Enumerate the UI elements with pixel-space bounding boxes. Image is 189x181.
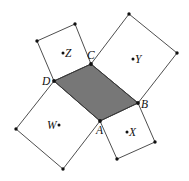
label-y: Y — [135, 53, 143, 65]
vertex-dot — [14, 127, 17, 130]
label-z: Z — [65, 47, 72, 59]
label-d: D — [41, 75, 51, 87]
label-a: A — [95, 124, 104, 136]
vertex-dot — [35, 39, 38, 42]
vertex-dot — [127, 12, 130, 15]
vertex-dot — [61, 167, 64, 170]
vertex-d — [52, 79, 56, 83]
vertex-dot — [115, 157, 118, 160]
vertex-dot — [153, 140, 156, 143]
label-x: X — [128, 126, 137, 138]
label-c: C — [87, 49, 95, 61]
vertex-c — [89, 62, 93, 66]
center-w — [58, 124, 61, 127]
label-w: W — [47, 119, 58, 131]
vertex-a — [98, 119, 102, 123]
geometry-diagram: A B C D W X Y Z — [0, 0, 189, 181]
vertex-b — [136, 101, 140, 105]
vertex-dot — [175, 51, 178, 54]
vertex-dot — [73, 22, 76, 25]
label-b: B — [141, 98, 148, 110]
